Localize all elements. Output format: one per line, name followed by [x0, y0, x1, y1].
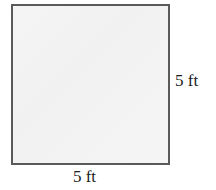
right-side-dimension-label: 5 ft [175, 72, 198, 89]
square-shape [11, 4, 170, 165]
figure-canvas: 5 ft 5 ft [0, 0, 216, 190]
bottom-side-dimension-label: 5 ft [0, 168, 169, 185]
